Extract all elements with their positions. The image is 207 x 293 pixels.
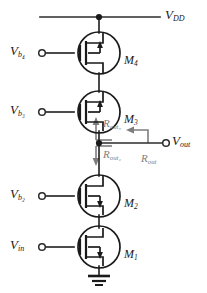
label-rout-main: R [141,152,148,164]
label-rout2-main: R [103,148,110,160]
label-vb2-main: V [10,186,18,201]
label-vb4: Vb₄ [10,44,25,59]
terminal-vin[interactable] [39,244,46,251]
node-dot-output [96,140,102,146]
label-vb3: Vb₃ [10,103,25,118]
label-rout: Rout [141,153,156,166]
label-m4: M4 [124,54,138,68]
label-m2: M2 [124,197,138,211]
label-vb2: Vb₂ [10,187,25,202]
rout-bracket [132,130,148,143]
label-vdd-main: V [165,7,173,22]
m1-arrow [97,252,103,259]
transistor-m1 [78,226,120,268]
terminal-vb2[interactable] [39,193,46,200]
label-rout3: Rout₃ [103,118,121,131]
label-m3-main: M [124,112,134,126]
label-vin-main: V [10,237,18,252]
rout-arrow-head [126,127,134,134]
label-vb4-sub: b₄ [18,50,25,59]
ground-symbol [88,276,110,285]
m3-arrow [97,100,103,107]
label-vdd: VDD [165,8,185,23]
label-m1-sub: 1 [134,253,138,262]
label-vb3-main: V [10,102,18,117]
label-vout: Vout [172,134,190,149]
m2-arrow [97,201,103,208]
label-rout-sub: out [148,158,157,165]
label-vin: Vin [10,238,24,253]
label-rout2-sub: out₂ [110,154,121,161]
label-m1-main: M [124,247,134,261]
terminal-vout[interactable] [163,140,170,147]
circuit-diagram: VDD Vb₄ Vb₃ Vb₂ Vin M4 M3 M2 M1 Vout Rou… [0,0,207,293]
terminal-vb4[interactable] [39,50,46,57]
label-vb3-sub: b₃ [18,109,25,118]
label-rout3-sub: out₃ [110,123,121,130]
label-m3-sub: 3 [134,118,138,127]
label-m2-sub: 2 [134,202,138,211]
label-vout-sub: out [180,140,190,149]
label-rout3-main: R [103,117,110,129]
label-rout2: Rout₂ [103,149,121,162]
label-vout-main: V [172,133,180,148]
label-vb2-sub: b₂ [18,193,25,202]
label-m4-main: M [124,53,134,67]
node-dot-vdd [96,14,102,20]
label-vin-sub: in [18,244,24,253]
label-vdd-sub: DD [173,14,185,23]
label-m2-main: M [124,196,134,210]
transistor-m4 [78,32,120,74]
label-m3: M3 [124,113,138,127]
terminal-vb3[interactable] [39,109,46,116]
label-vb4-main: V [10,43,18,58]
m4-arrow [97,41,103,48]
label-m4-sub: 4 [134,59,138,68]
rout3-arrow-head [93,117,100,125]
label-m1: M1 [124,248,138,262]
transistor-m2 [78,175,120,217]
